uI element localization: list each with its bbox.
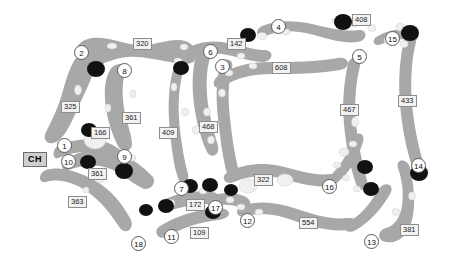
yardage-label: 322: [254, 174, 273, 186]
yardage-label: 408: [352, 14, 371, 26]
hole-marker-17[interactable]: 17: [208, 200, 223, 215]
yardage-label: 433: [398, 95, 417, 107]
yardage-label: 325: [61, 101, 80, 113]
yardage-label: 142: [227, 38, 246, 50]
yardage-label: 363: [68, 196, 87, 208]
yardage-label: 109: [190, 227, 209, 239]
clubhouse-marker[interactable]: CH: [23, 152, 47, 167]
hole-marker-5[interactable]: 5: [352, 49, 367, 64]
hole-marker-10[interactable]: 10: [61, 154, 76, 169]
hole-marker-4[interactable]: 4: [271, 19, 286, 34]
hole-marker-1[interactable]: 1: [57, 138, 72, 153]
hole-marker-11[interactable]: 11: [164, 229, 179, 244]
yardage-label: 608: [272, 62, 291, 74]
yardage-label: 172: [186, 199, 205, 211]
yardage-label: 361: [122, 112, 141, 124]
yardage-label: 409: [159, 127, 178, 139]
hole-marker-9[interactable]: 9: [117, 149, 132, 164]
hole-marker-8[interactable]: 8: [117, 63, 132, 78]
hole-marker-3[interactable]: 3: [215, 59, 230, 74]
yardage-label: 166: [91, 127, 110, 139]
hole-marker-2[interactable]: 2: [74, 45, 89, 60]
yardage-label: 320: [133, 38, 152, 50]
hole-marker-12[interactable]: 12: [240, 213, 255, 228]
hole-marker-7[interactable]: 7: [174, 181, 189, 196]
hole-marker-6[interactable]: 6: [203, 44, 218, 59]
yardage-label: 467: [340, 104, 359, 116]
golf-course-map: CH 1 2 3 4 5 6 7 8 9 10 11 12 13 14 15 1…: [0, 0, 454, 261]
yardage-label: 361: [88, 168, 107, 180]
hole-marker-13[interactable]: 13: [364, 234, 379, 249]
yardage-label: 381: [400, 224, 419, 236]
hole-marker-18[interactable]: 18: [131, 236, 146, 251]
yardage-label: 468: [199, 121, 218, 133]
hole-marker-16[interactable]: 16: [322, 179, 337, 194]
yardage-label: 554: [299, 217, 318, 229]
hole-marker-14[interactable]: 14: [411, 158, 426, 173]
hole-marker-15[interactable]: 15: [385, 31, 400, 46]
